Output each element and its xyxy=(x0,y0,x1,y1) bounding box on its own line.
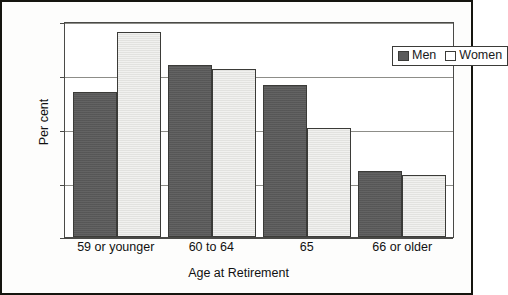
ytick-mark-0 xyxy=(60,238,65,239)
legend-swatch-women-icon xyxy=(445,51,456,61)
bar-women-66-or-older xyxy=(402,175,446,237)
y-axis-label: Per cent xyxy=(37,99,51,146)
bar-men-60-to-64 xyxy=(168,65,212,237)
plot-area: 40 30 20 10 0 Per cent xyxy=(64,22,454,238)
legend-swatch-men-icon xyxy=(398,51,409,61)
xtick-label-0: 59 or younger xyxy=(68,240,164,254)
gridline-0: 0 xyxy=(65,238,453,239)
legend-label-women: Women xyxy=(459,49,502,62)
bar-women-59-or-younger xyxy=(117,32,161,237)
x-axis-ticks: 59 or younger 60 to 64 65 66 or older xyxy=(64,240,454,254)
bar-group-60-to-64 xyxy=(164,23,259,237)
bar-men-65 xyxy=(263,85,307,237)
legend-label-men: Men xyxy=(412,49,436,62)
bar-group-65 xyxy=(259,23,354,237)
legend-item-women: Women xyxy=(445,49,502,62)
bar-group-59-or-younger xyxy=(69,23,164,237)
bar-women-65 xyxy=(307,128,351,237)
xtick-label-1: 60 to 64 xyxy=(164,240,260,254)
x-axis-label: Age at Retirement xyxy=(2,266,475,280)
bar-men-59-or-younger xyxy=(73,92,117,237)
xtick-label-3: 66 or older xyxy=(355,240,451,254)
legend: Men Women xyxy=(392,46,508,66)
bar-women-60-to-64 xyxy=(212,69,256,237)
legend-item-men: Men xyxy=(398,49,436,62)
bar-men-66-or-older xyxy=(358,171,402,237)
xtick-label-2: 65 xyxy=(259,240,355,254)
